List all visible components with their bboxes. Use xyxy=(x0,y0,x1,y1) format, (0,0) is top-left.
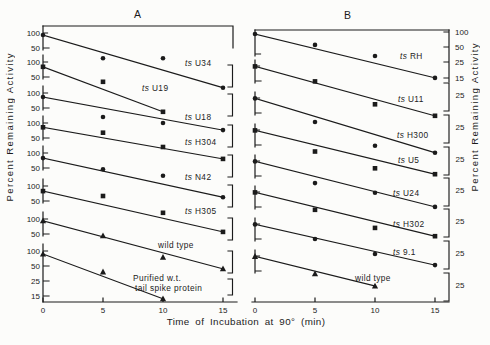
data-point-circle xyxy=(253,159,258,164)
row-axis xyxy=(255,124,261,147)
series-label: wild type xyxy=(354,273,391,283)
y-tick-label: 50 xyxy=(31,262,40,271)
data-point-circle xyxy=(253,96,258,101)
decay-line xyxy=(255,192,435,236)
series-purified-w-t-tail-spike-protein: 100502515Purified w.t.tail spike protein xyxy=(27,244,233,302)
y-tick-label: 15 xyxy=(31,292,40,301)
x-axis: 051015 xyxy=(252,298,449,315)
row-bracket xyxy=(228,65,233,87)
data-point-triangle xyxy=(40,218,46,224)
series-label: Purified w.t.tail spike protein xyxy=(133,273,202,293)
data-point-square xyxy=(101,194,106,199)
series-wild-type: 10050wild type xyxy=(27,212,233,273)
x-axis-title: Time of Incubation at 90° (min) xyxy=(118,316,374,327)
series-ts-u34: 10050ts U34 xyxy=(27,26,233,90)
row-bracket xyxy=(228,279,233,295)
data-point-square xyxy=(161,110,166,115)
data-point-circle xyxy=(253,222,258,227)
data-point-square xyxy=(161,145,166,150)
data-point-square xyxy=(41,65,46,70)
data-point-circle xyxy=(313,181,318,186)
data-point-circle xyxy=(41,33,46,38)
row-axis xyxy=(43,212,49,236)
data-point-triangle xyxy=(100,269,106,275)
row-bracket xyxy=(228,251,233,273)
series-label: ts U34 xyxy=(185,58,211,68)
y-tick-label: 50 xyxy=(31,73,40,82)
data-point-circle xyxy=(101,115,106,120)
series-ts-u24: 25ts U24 xyxy=(253,155,465,209)
row-axis xyxy=(255,92,261,115)
x-tick-label: 0 xyxy=(41,306,46,315)
panel-a: 10050ts U3410050ts U1910050ts U1810050ts… xyxy=(27,26,237,315)
y-tick-label: 100 xyxy=(27,119,41,128)
row-bracket xyxy=(228,185,233,207)
row-axis xyxy=(255,218,261,241)
y-tick-label: 25 xyxy=(456,91,465,100)
row-bracket xyxy=(228,218,233,240)
x-tick-label: 0 xyxy=(253,306,258,315)
y-tick-label: 100 xyxy=(27,89,41,98)
y-tick-label: 100 xyxy=(27,247,41,256)
row-axis xyxy=(255,186,261,209)
series-ts-u11: 25ts U11 xyxy=(253,60,465,118)
figure: 10050ts U3410050ts U1910050ts U1810050ts… xyxy=(0,0,490,345)
series-ts-h304: 10050ts H304 xyxy=(27,116,233,177)
series-ts-9-1: 25ts 9.1 xyxy=(253,218,465,269)
data-point-square xyxy=(253,64,258,69)
series-label: ts H305 xyxy=(185,206,216,216)
y-tick-label: 100 xyxy=(27,29,41,38)
data-point-circle xyxy=(373,191,378,196)
series-ts-h300: 25ts H300 xyxy=(253,92,465,155)
data-point-square xyxy=(253,190,258,195)
data-point-circle xyxy=(253,32,258,37)
data-point-circle xyxy=(101,167,106,172)
row-bracket xyxy=(228,125,233,147)
data-point-square xyxy=(373,166,378,171)
data-point-square xyxy=(101,80,106,85)
x-tick-label: 10 xyxy=(159,306,168,315)
data-point-circle xyxy=(373,54,378,59)
row-bracket xyxy=(444,178,449,206)
data-point-circle xyxy=(313,237,318,242)
x-tick-label: 5 xyxy=(101,306,106,315)
series-ts-h305: 10050ts H305 xyxy=(27,179,233,240)
series-label: ts U24 xyxy=(393,188,419,198)
row-bracket xyxy=(444,147,449,175)
series-label: ts U5 xyxy=(398,155,419,165)
decay-line xyxy=(255,224,435,265)
decay-line xyxy=(255,161,435,207)
series-label: ts H300 xyxy=(397,130,428,140)
y-tick-label: 50 xyxy=(31,44,40,53)
panel-b-letter: B xyxy=(344,9,351,21)
series-label: ts N42 xyxy=(185,172,211,182)
decay-line xyxy=(43,221,223,269)
data-point-circle xyxy=(433,205,438,210)
series-label: ts U19 xyxy=(142,83,168,93)
data-point-square xyxy=(313,79,318,84)
data-point-square xyxy=(221,230,226,235)
data-point-circle xyxy=(101,56,106,61)
data-point-square xyxy=(433,234,438,239)
x-axis-line xyxy=(252,298,449,302)
data-point-circle xyxy=(161,121,166,126)
x-axis-line xyxy=(43,298,237,302)
series-wild-type: 25wild type xyxy=(252,250,465,301)
y-tick-label: 50 xyxy=(31,197,40,206)
data-point-square xyxy=(161,211,166,216)
data-point-circle xyxy=(41,156,46,161)
row-axis xyxy=(255,250,261,273)
y-tick-label: 15 xyxy=(455,74,464,83)
data-point-circle xyxy=(433,263,438,268)
row-bracket xyxy=(444,83,449,111)
row-bracket xyxy=(228,155,233,177)
x-axis: 051015 xyxy=(41,298,237,315)
row-bracket xyxy=(444,273,449,301)
data-point-square xyxy=(253,128,258,133)
series-label: ts RH xyxy=(400,51,423,61)
data-point-square xyxy=(313,149,318,154)
y-tick-label: 25 xyxy=(456,186,465,195)
y-tick-label: 50 xyxy=(31,104,40,113)
subplot-frame xyxy=(43,26,233,48)
row-axis xyxy=(43,26,49,50)
